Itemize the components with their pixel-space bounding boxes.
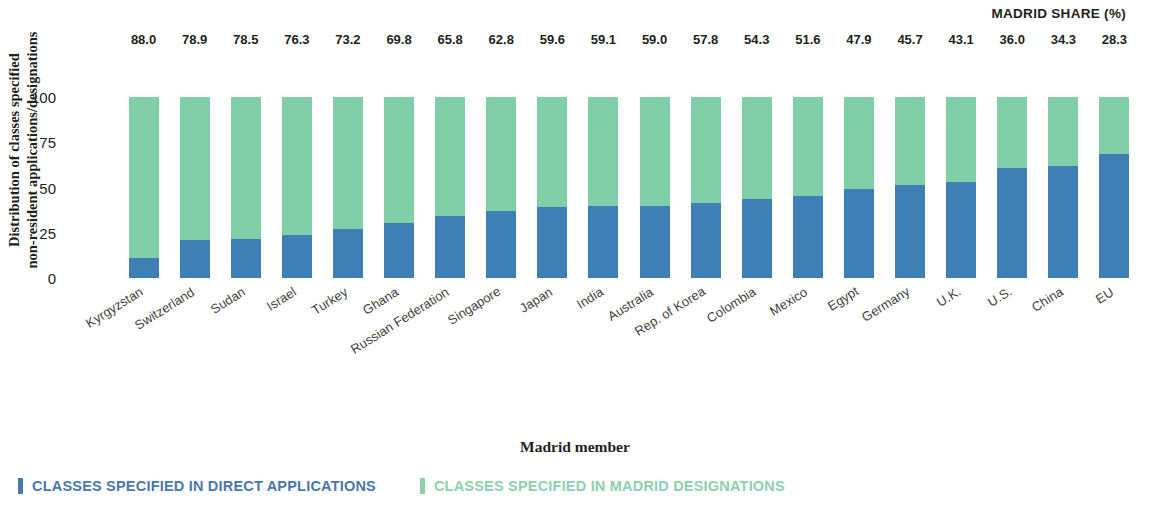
bar-column[interactable] [629, 97, 680, 278]
bar-column[interactable] [527, 97, 578, 278]
x-tick-label: Sudan [208, 284, 248, 317]
bar-segment-madrid-designations[interactable] [231, 97, 261, 239]
bar-segment-madrid-designations[interactable] [486, 97, 516, 211]
x-tick-label: Germany [859, 284, 912, 325]
bar-segment-madrid-designations[interactable] [742, 97, 772, 199]
bar-segment-madrid-designations[interactable] [691, 97, 721, 203]
bar-segment-madrid-designations[interactable] [282, 97, 312, 235]
madrid-share-value: 62.8 [489, 32, 514, 47]
bar-column[interactable] [169, 97, 220, 278]
bar-segment-direct-applications[interactable] [588, 206, 618, 278]
stacked-bar[interactable] [333, 97, 363, 278]
madrid-share-value: 54.3 [744, 32, 769, 47]
x-tick-label: EU [1093, 284, 1116, 306]
bar-segment-madrid-designations[interactable] [844, 97, 874, 189]
stacked-bar[interactable] [1048, 97, 1078, 278]
bar-segment-direct-applications[interactable] [946, 182, 976, 278]
bar-segment-madrid-designations[interactable] [946, 97, 976, 182]
bar-column[interactable] [731, 97, 782, 278]
bar-segment-direct-applications[interactable] [537, 207, 567, 278]
bar-column[interactable] [885, 97, 936, 278]
bar-column[interactable] [220, 97, 271, 278]
bar-segment-direct-applications[interactable] [742, 199, 772, 278]
bar-segment-madrid-designations[interactable] [537, 97, 567, 207]
bar-segment-direct-applications[interactable] [1048, 166, 1078, 278]
bar-column[interactable] [936, 97, 987, 278]
bar-segment-madrid-designations[interactable] [588, 97, 618, 206]
stacked-bar[interactable] [691, 97, 721, 278]
stacked-bar[interactable] [537, 97, 567, 278]
stacked-bar[interactable] [1099, 97, 1129, 278]
bar-segment-direct-applications[interactable] [997, 168, 1027, 278]
bar-column[interactable] [1038, 97, 1089, 278]
bar-column[interactable] [476, 97, 527, 278]
madrid-share-value: 57.8 [693, 32, 718, 47]
bar-segment-direct-applications[interactable] [486, 211, 516, 278]
bar-column[interactable] [1089, 97, 1140, 278]
bar-segment-madrid-designations[interactable] [333, 97, 363, 229]
bar-segment-madrid-designations[interactable] [129, 97, 159, 258]
stacked-bar[interactable] [895, 97, 925, 278]
chart-plot-area [118, 97, 1140, 278]
stacked-bar[interactable] [282, 97, 312, 278]
bar-segment-madrid-designations[interactable] [1099, 97, 1129, 154]
bar-segment-direct-applications[interactable] [793, 196, 823, 278]
bar-segment-madrid-designations[interactable] [435, 97, 465, 216]
stacked-bar[interactable] [640, 97, 670, 278]
bar-segment-direct-applications[interactable] [231, 239, 261, 278]
madrid-share-value: 78.9 [182, 32, 207, 47]
stacked-bar[interactable] [180, 97, 210, 278]
legend-item-direct-applications[interactable]: CLASSES SPECIFIED IN DIRECT APPLICATIONS [18, 478, 376, 494]
bar-column[interactable] [374, 97, 425, 278]
madrid-share-value: 43.1 [948, 32, 973, 47]
madrid-share-value: 51.6 [795, 32, 820, 47]
bar-column[interactable] [833, 97, 884, 278]
bar-column[interactable] [782, 97, 833, 278]
bar-segment-direct-applications[interactable] [691, 203, 721, 278]
bar-segment-direct-applications[interactable] [1099, 154, 1129, 278]
bar-column[interactable] [578, 97, 629, 278]
madrid-share-value: 73.2 [335, 32, 360, 47]
bar-column[interactable] [271, 97, 322, 278]
bar-segment-direct-applications[interactable] [129, 258, 159, 278]
bar-segment-madrid-designations[interactable] [997, 97, 1027, 168]
stacked-bar[interactable] [435, 97, 465, 278]
bar-segment-madrid-designations[interactable] [180, 97, 210, 240]
bar-segment-direct-applications[interactable] [384, 223, 414, 278]
bar-column[interactable] [322, 97, 373, 278]
bar-segment-madrid-designations[interactable] [384, 97, 414, 223]
bar-segment-direct-applications[interactable] [282, 235, 312, 278]
x-tick-label: Japan [517, 284, 555, 315]
bar-segment-direct-applications[interactable] [180, 240, 210, 278]
madrid-share-title: MADRID SHARE (%) [991, 6, 1126, 21]
bar-segment-direct-applications[interactable] [844, 189, 874, 278]
stacked-bar[interactable] [946, 97, 976, 278]
legend-item-madrid-designations[interactable]: CLASSES SPECIFIED IN MADRID DESIGNATIONS [420, 478, 785, 494]
bar-segment-madrid-designations[interactable] [895, 97, 925, 185]
stacked-bar[interactable] [129, 97, 159, 278]
stacked-bar[interactable] [997, 97, 1027, 278]
bar-segment-direct-applications[interactable] [435, 216, 465, 278]
stacked-bar[interactable] [588, 97, 618, 278]
madrid-share-value: 45.7 [897, 32, 922, 47]
bar-segment-madrid-designations[interactable] [1048, 97, 1078, 166]
bar-column[interactable] [680, 97, 731, 278]
bar-segment-madrid-designations[interactable] [640, 97, 670, 206]
stacked-bar[interactable] [793, 97, 823, 278]
stacked-bar[interactable] [742, 97, 772, 278]
x-tick-label: U.K. [934, 284, 963, 310]
bar-segment-direct-applications[interactable] [640, 206, 670, 278]
x-tick-label: India [574, 284, 606, 312]
bar-segment-madrid-designations[interactable] [793, 97, 823, 196]
bar-segment-direct-applications[interactable] [333, 229, 363, 278]
legend-label-direct-applications: CLASSES SPECIFIED IN DIRECT APPLICATIONS [32, 478, 376, 494]
bar-column[interactable] [987, 97, 1038, 278]
bar-column[interactable] [425, 97, 476, 278]
stacked-bar[interactable] [844, 97, 874, 278]
bar-column[interactable] [118, 97, 169, 278]
stacked-bar[interactable] [231, 97, 261, 278]
stacked-bar[interactable] [384, 97, 414, 278]
y-axis-title-line1: Distribution of classes specified [6, 31, 24, 268]
stacked-bar[interactable] [486, 97, 516, 278]
bar-segment-direct-applications[interactable] [895, 185, 925, 278]
